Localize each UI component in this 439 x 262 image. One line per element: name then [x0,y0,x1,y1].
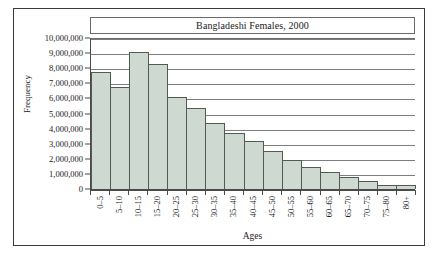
x-axis-label-cell: 0–5 [90,196,109,232]
x-axis-tick-cell [339,190,358,195]
x-axis-tick-label: 5–10 [114,196,124,213]
y-axis-tick-label: 4,000,000 [49,124,83,134]
x-axis-tick-cell [300,190,319,195]
x-axis-tick-cell [281,190,300,195]
x-axis-labels: 0–55–1010–1515–2020–2525–3030–3535–4040–… [90,196,415,232]
x-axis-tick-label: 15–20 [152,196,162,217]
y-axis-tick-label: 2,000,000 [49,154,83,164]
x-axis-tick-cell [224,190,243,195]
chart-figure: Bangladeshi Females, 2000 Frequency 10,0… [13,8,425,246]
x-axis-tick-label: 10–15 [133,196,143,217]
plot-area [90,38,415,189]
x-axis-title: Ages [90,231,415,241]
x-axis-label-cell: 70–75 [358,196,377,232]
x-axis-tick-cell [90,190,109,195]
x-axis-label-cell: 15–20 [147,196,166,232]
x-axis-label-cell: 35–40 [224,196,243,232]
bar [244,141,264,189]
bar [91,72,111,189]
bar [339,177,359,189]
bar [129,52,149,189]
y-axis-tick-label: 3,000,000 [49,139,83,149]
x-axis-tick-cell [243,190,262,195]
x-axis-tick-mark [167,190,168,195]
x-axis-tick-cell [128,190,147,195]
x-axis-ticks [90,190,415,195]
x-axis-tick-mark [300,190,301,195]
y-axis-tick-label: 1,000,000 [49,169,83,179]
x-axis-tick-cell [205,190,224,195]
x-axis-label-cell: 80+ [396,196,415,232]
x-axis-tick-mark [339,190,340,195]
x-axis-label-cell: 40–45 [243,196,262,232]
y-axis-tick-label: 10,000,000 [45,33,83,43]
y-axis-tick-label: 7,000,000 [49,78,83,88]
x-axis-label-cell: 65–70 [339,196,358,232]
bar [167,97,187,189]
x-axis-tick-mark [90,190,91,195]
x-axis-label-cell: 75–80 [377,196,396,232]
x-axis-tick-label: 60–65 [324,196,334,217]
x-axis-label-cell: 50–55 [281,196,300,232]
x-axis-tick-cell [320,190,339,195]
x-axis-label-cell: 60–65 [320,196,339,232]
x-axis-tick-mark [128,190,129,195]
x-axis-tick-label: 30–35 [209,196,219,217]
x-axis-tick-mark [224,190,225,195]
x-axis-tick-cell [186,190,205,195]
x-axis-label-cell: 20–25 [167,196,186,232]
x-axis-tick-cell [262,190,281,195]
x-axis-tick-mark [415,190,416,195]
chart-title: Bangladeshi Females, 2000 [196,20,309,31]
x-axis-tick-mark [377,190,378,195]
y-axis-tick-label: 9,000,000 [49,48,83,58]
x-axis-tick-label: 25–30 [190,196,200,217]
bar [205,123,225,189]
y-axis-tick-label: 0 [79,184,83,194]
bar [110,87,130,189]
bar [282,160,302,189]
x-axis-tick-mark [262,190,263,195]
x-axis-tick-mark [243,190,244,195]
x-axis-label-cell: 30–35 [205,196,224,232]
bar [186,108,206,189]
x-axis-tick-mark [186,190,187,195]
x-axis-tick-label: 40–45 [248,196,258,217]
x-axis-tick-label: 20–25 [171,196,181,217]
bar [224,133,244,189]
x-axis-tick-mark [396,190,397,195]
bar [301,167,321,189]
x-axis-label-cell: 45–50 [262,196,281,232]
y-axis-ticks: 10,000,0009,000,0008,000,0007,000,0006,0… [14,38,90,189]
x-axis-tick-label: 55–60 [305,196,315,217]
x-axis-tick-label: 70–75 [362,196,372,217]
y-axis-tick-label: 6,000,000 [49,93,83,103]
x-axis-tick-cell [167,190,186,195]
x-axis-tick-label: 0–5 [95,196,105,209]
x-axis-tick-label: 80+ [401,196,411,209]
bar [148,64,168,189]
x-axis-tick-label: 65–70 [343,196,353,217]
chart-title-box: Bangladeshi Females, 2000 [90,17,415,34]
x-axis-tick-mark [358,190,359,195]
bar-series [91,39,415,189]
x-axis-tick-mark [320,190,321,195]
x-axis-tick-label: 35–40 [228,196,238,217]
x-axis-tick-mark [205,190,206,195]
x-axis-tick-cell [377,190,396,195]
x-axis-label-cell: 55–60 [300,196,319,232]
x-axis-tick-cell [109,190,128,195]
x-axis-label-cell: 25–30 [186,196,205,232]
y-axis-tick-label: 8,000,000 [49,63,83,73]
x-axis-tick-cell [147,190,166,195]
x-axis-tick-cell [396,190,415,195]
x-axis-tick-label: 50–55 [286,196,296,217]
bar [320,172,340,189]
x-axis-tick-mark [109,190,110,195]
x-axis-tick-mark [281,190,282,195]
bar [358,181,378,189]
x-axis-tick-cell [358,190,377,195]
bar [263,151,283,189]
x-axis-tick-mark [147,190,148,195]
x-axis-label-cell: 5–10 [109,196,128,232]
